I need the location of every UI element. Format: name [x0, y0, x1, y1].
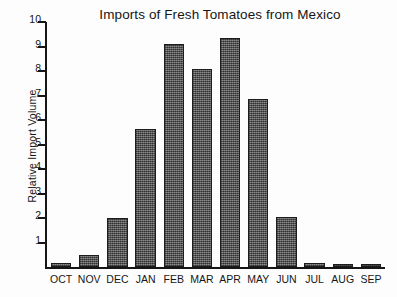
bar-slot — [79, 22, 99, 267]
x-axis-tick-label-dec: DEC — [103, 274, 131, 285]
x-axis-tick-label-nov: NOV — [75, 274, 103, 285]
x-axis-tick-label-aug: AUG — [329, 274, 357, 285]
bar-dec[interactable] — [107, 218, 127, 267]
bar-slot — [220, 22, 240, 267]
x-axis-tick-label-mar: MAR — [188, 274, 216, 285]
chart-title: Imports of Fresh Tomatoes from Mexico — [55, 7, 385, 22]
bar-jan[interactable] — [135, 129, 155, 267]
x-axis-tick-label-jun: JUN — [272, 274, 300, 285]
bar-series — [47, 22, 385, 267]
bar-oct[interactable] — [51, 263, 71, 267]
bar-slot — [248, 22, 268, 267]
y-axis-tick-label: 4 — [17, 161, 41, 172]
y-axis-tick-label: 8 — [17, 63, 41, 74]
x-axis-tick-label-oct: OCT — [47, 274, 75, 285]
bar-may[interactable] — [248, 99, 268, 267]
x-axis-tick-label-jan: JAN — [132, 274, 160, 285]
x-axis-tick-label-may: MAY — [244, 274, 272, 285]
x-axis-tick-label-feb: FEB — [160, 274, 188, 285]
x-axis-tick-label-jul: JUL — [301, 274, 329, 285]
bar-slot — [51, 22, 71, 267]
chart-figure: Imports of Fresh Tomatoes from Mexico Re… — [0, 0, 397, 297]
bar-feb[interactable] — [164, 44, 184, 267]
bar-apr[interactable] — [220, 38, 240, 267]
bar-slot — [135, 22, 155, 267]
y-axis-tick-label: 7 — [17, 88, 41, 99]
bar-mar[interactable] — [192, 69, 212, 267]
y-axis-tick-label: 5 — [17, 137, 41, 148]
bar-slot — [361, 22, 381, 267]
bar-slot — [192, 22, 212, 267]
x-axis-tick-label-sep: SEP — [357, 274, 385, 285]
y-axis-tick-label: 9 — [17, 39, 41, 50]
bar-jun[interactable] — [276, 217, 296, 267]
x-axis-line — [45, 267, 385, 269]
bar-jul[interactable] — [304, 263, 324, 267]
y-axis-tick-label: 3 — [17, 186, 41, 197]
plot-area: 10987654321 OCTNOVDECJANFEBMARAPRMAYJUNJ… — [45, 22, 385, 268]
bar-nov[interactable] — [79, 255, 99, 267]
bar-sep[interactable] — [361, 264, 381, 267]
bar-slot — [107, 22, 127, 267]
y-axis-tick-label: 10 — [17, 14, 41, 25]
bar-slot — [164, 22, 184, 267]
bar-slot — [276, 22, 296, 267]
bar-slot — [304, 22, 324, 267]
y-axis-tick-label: 6 — [17, 112, 41, 123]
bar-slot — [333, 22, 353, 267]
bar-aug[interactable] — [333, 264, 353, 267]
y-axis-tick-label: 1 — [17, 235, 41, 246]
x-axis-tick-label-apr: APR — [216, 274, 244, 285]
y-axis-tick-label: 2 — [17, 210, 41, 221]
